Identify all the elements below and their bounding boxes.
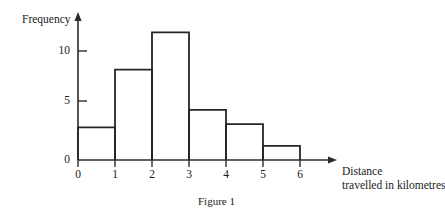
x-tick-label-5: 5	[255, 169, 271, 181]
x-tick-label-2: 2	[144, 169, 160, 181]
y-tick-label-10: 10	[52, 45, 70, 57]
x-axis-arrowhead	[328, 156, 337, 163]
x-axis	[78, 156, 337, 167]
bar-0-1	[78, 127, 115, 160]
bar-1-2	[115, 70, 152, 160]
y-axis-arrowhead	[74, 12, 81, 21]
y-tick-label-5: 5	[52, 95, 70, 107]
x-tick-label-4: 4	[218, 169, 234, 181]
x-axis-label-line1: Distance	[342, 166, 382, 178]
x-tick-label-1: 1	[107, 169, 123, 181]
y-axis	[74, 12, 87, 160]
y-axis-label: Frequency	[22, 14, 71, 26]
figure-caption: Figure 1	[0, 195, 433, 207]
x-tick-label-0: 0	[70, 169, 86, 181]
x-tick-label-6: 6	[292, 169, 308, 181]
histogram-bars	[78, 32, 300, 160]
bar-5-6	[263, 146, 300, 160]
bar-2-3	[152, 32, 189, 160]
x-axis-label-line2: travelled in kilometres	[342, 180, 445, 192]
x-tick-label-3: 3	[181, 169, 197, 181]
bar-4-5	[226, 124, 263, 160]
y-tick-label-0: 0	[52, 154, 70, 166]
bar-3-4	[189, 110, 226, 160]
